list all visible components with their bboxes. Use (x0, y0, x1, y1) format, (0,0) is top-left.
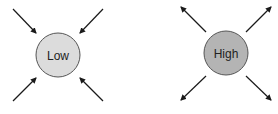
arrow-inward-bottom-left (13, 78, 36, 101)
arrow-inward-top-right (80, 9, 103, 33)
diagram-canvas: Low High (0, 0, 278, 114)
arrow-outward-top-right (246, 7, 271, 32)
arrow-outward-bottom-left (181, 76, 206, 100)
low-node-group: Low (13, 9, 103, 101)
arrow-outward-bottom-right (246, 76, 271, 100)
low-label: Low (47, 49, 69, 63)
arrow-outward-top-left (181, 7, 206, 32)
high-label: High (214, 47, 239, 61)
high-node-group: High (181, 7, 271, 100)
arrow-inward-bottom-right (80, 78, 103, 101)
arrow-inward-top-left (13, 9, 36, 33)
